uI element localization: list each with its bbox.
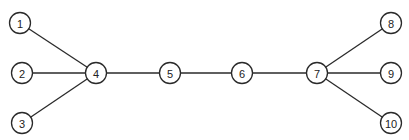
node-label: 9	[388, 68, 394, 80]
node-label: 3	[19, 118, 25, 130]
graph-diagram: 12345678910	[0, 0, 409, 140]
node-label: 7	[314, 68, 320, 80]
node-10: 10	[381, 113, 402, 134]
node-label: 2	[19, 68, 25, 80]
node-6: 6	[232, 63, 253, 84]
node-label: 4	[93, 68, 99, 80]
edge-1-4	[20, 23, 96, 73]
edges-layer	[20, 23, 391, 123]
node-8: 8	[381, 13, 402, 34]
node-5: 5	[160, 63, 181, 84]
node-2: 2	[12, 63, 33, 84]
node-label: 1	[17, 18, 23, 30]
edge-7-10	[317, 73, 391, 123]
node-4: 4	[86, 63, 107, 84]
node-label: 6	[239, 68, 245, 80]
node-label: 8	[388, 18, 394, 30]
edge-7-8	[317, 23, 391, 73]
edge-3-4	[22, 73, 96, 123]
node-label: 10	[385, 118, 397, 130]
node-7: 7	[307, 63, 328, 84]
node-label: 5	[167, 68, 173, 80]
node-9: 9	[381, 63, 402, 84]
node-3: 3	[12, 113, 33, 134]
node-1: 1	[10, 13, 31, 34]
